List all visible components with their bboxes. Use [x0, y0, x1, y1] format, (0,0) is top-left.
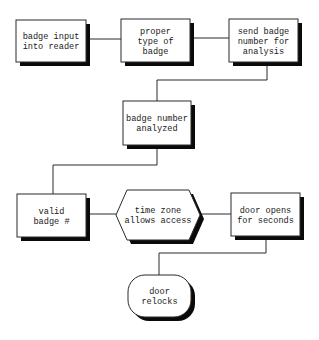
node-label-line: valid — [39, 207, 65, 217]
node-n3: send badgenumber foranalysis — [229, 19, 302, 66]
node-n1: badge inputinto reader — [16, 20, 90, 66]
connector-n4-n5 — [53, 145, 157, 194]
node-label-line: door — [149, 287, 170, 297]
flowchart-diagram: badge inputinto readerpropertype ofbadge… — [0, 0, 319, 340]
node-label-line: badge number — [126, 114, 188, 124]
node-n4: badge numberanalyzed — [123, 101, 195, 149]
node-label-line: number for — [238, 37, 290, 47]
node-label-line: door opens — [240, 206, 292, 216]
node-label-line: into reader — [23, 42, 80, 52]
node-label-line: for seconds — [237, 216, 294, 226]
node-label-line: analyzed — [136, 124, 177, 134]
node-label-line: badge # — [33, 217, 69, 227]
node-label-line: time zone — [135, 206, 181, 216]
node-label-line: send badge — [238, 27, 290, 37]
node-label-line: proper — [140, 27, 171, 37]
node-label-line: allows access — [124, 216, 191, 226]
connector-n3-n4 — [157, 62, 267, 101]
node-label-line: badge — [143, 47, 169, 57]
node-label-line: relocks — [141, 297, 177, 307]
node-n7: door opensfor seconds — [231, 193, 304, 240]
node-label-line: type of — [137, 37, 173, 47]
node-label-line: analysis — [243, 47, 284, 57]
node-n6: time zoneallows access — [116, 190, 204, 244]
node-n2: propertype ofbadge — [121, 19, 194, 66]
node-n5: validbadge # — [17, 194, 90, 241]
nodes: badge inputinto readerpropertype ofbadge… — [16, 19, 304, 321]
node-n8: doorrelocks — [128, 275, 195, 321]
node-label-line: badge input — [23, 32, 80, 42]
